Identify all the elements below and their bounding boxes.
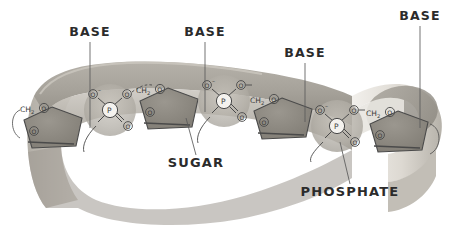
sugar-ring-oxygen-label: O [377, 132, 382, 139]
phosphate-3: P O – O O [311, 100, 366, 162]
sugar-apex-oxygen-label: O [387, 109, 392, 116]
label-base-2: BASE [184, 24, 226, 39]
sugar-apex-oxygen-label: O [271, 96, 276, 103]
phosphorus-label: P [107, 106, 112, 115]
phosphate-minus-charge: – [212, 77, 215, 84]
diagram-canvas: CH 2 O O CH 2 O O CH 2 O [0, 0, 459, 230]
sugar-ch2-label: CH [366, 109, 377, 118]
backbone-diagram-svg: CH 2 O O CH 2 O O CH 2 O [0, 0, 459, 230]
sugar-apex-oxygen-label: O [41, 105, 46, 112]
phosphate-minus-charge: – [98, 86, 101, 93]
sugar-side-curve [13, 110, 21, 138]
sugar-ring-oxygen-label: O [261, 119, 266, 126]
sugar-ch2-label: CH [20, 105, 31, 114]
label-base-3: BASE [284, 45, 326, 60]
phosphate-o-minus-label: O [317, 107, 322, 114]
phosphate-o-double-label: O [125, 123, 130, 130]
label-base-1: BASE [69, 24, 111, 39]
phosphate-minus-charge: – [325, 102, 328, 109]
sugar-ring-oxygen-label: O [147, 109, 152, 116]
phosphate-o-ester-label: O [351, 107, 356, 114]
sugar-ch2-subscript: 2 [147, 90, 150, 96]
sugar-ch2-label: CH [136, 86, 147, 95]
sugar-ring-oxygen-label: O [31, 128, 36, 135]
phosphate-o-ester-label: O [238, 82, 243, 89]
label-sugar: SUGAR [168, 155, 225, 170]
phosphate-o-double-label: O [239, 114, 244, 121]
label-base-4: BASE [399, 8, 441, 23]
sugar-ch2-subscript: 2 [377, 113, 380, 119]
phosphorus-label: P [221, 97, 226, 106]
phosphorus-label: P [334, 122, 339, 131]
sugar-ch2-subscript: 2 [31, 109, 34, 115]
sugar-apex-oxygen-label: O [157, 86, 162, 93]
sugar-ch2-subscript: 2 [261, 100, 264, 106]
phosphate-2: P O – O O [198, 75, 253, 143]
label-phosphate: PHOSPHATE [301, 184, 400, 199]
phosphate-o-double-label: O [352, 139, 357, 146]
phosphate-o-minus-label: O [90, 91, 95, 98]
phosphate-o-ester-label: O [124, 91, 129, 98]
sugar-ch2-label: CH [250, 96, 261, 105]
